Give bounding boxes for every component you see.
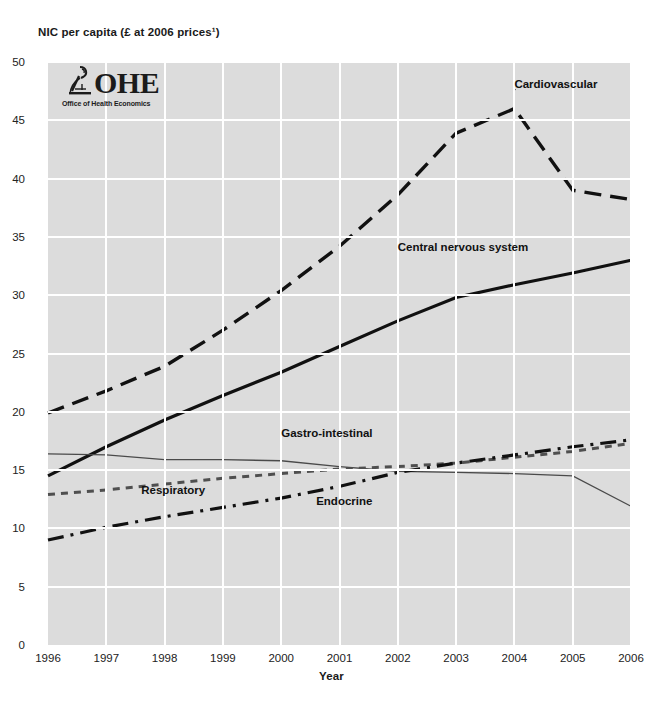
series-label-gastro-intestinal: Gastro-intestinal: [281, 427, 372, 439]
gridline-vertical: [397, 62, 399, 645]
x-axis-title: Year: [0, 670, 663, 682]
series-label-endocrine: Endocrine: [316, 495, 372, 507]
y-axis-tick-label: 5: [0, 581, 25, 593]
gridline-vertical: [222, 62, 224, 645]
logo-wordmark: OHE: [94, 66, 159, 100]
y-axis-tick-label: 10: [0, 522, 25, 534]
y-axis-tick-label: 0: [0, 639, 25, 651]
y-axis-tick-label: 25: [0, 348, 25, 360]
x-axis-tick-label: 2002: [368, 652, 428, 664]
gridline-vertical: [455, 62, 457, 645]
y-axis-tick-label: 20: [0, 406, 25, 418]
gridline-vertical: [630, 62, 632, 645]
y-axis-title: NIC per capita (£ at 2006 prices¹): [38, 26, 220, 38]
gridline-vertical: [105, 62, 107, 645]
x-axis-tick-label: 2004: [484, 652, 544, 664]
plot-area: [48, 62, 631, 645]
x-axis-tick-label: 2003: [426, 652, 486, 664]
x-axis-tick-label: 1997: [76, 652, 136, 664]
x-axis-tick-label: 2001: [310, 652, 370, 664]
x-axis-tick-label: 1998: [135, 652, 195, 664]
gridline-vertical: [339, 62, 341, 645]
x-axis-tick-label: 2005: [543, 652, 603, 664]
y-axis-tick-label: 35: [0, 231, 25, 243]
y-axis-tick-label: 15: [0, 464, 25, 476]
gridline-vertical: [513, 62, 515, 645]
gridline-vertical: [164, 62, 166, 645]
series-label-cardiovascular: Cardiovascular: [514, 78, 597, 90]
gridline-vertical: [280, 62, 282, 645]
series-label-central-nervous-system: Central nervous system: [398, 241, 528, 253]
y-axis-tick-label: 30: [0, 289, 25, 301]
x-axis-tick-label: 1996: [18, 652, 78, 664]
y-axis-tick-label: 50: [0, 56, 25, 68]
chart-container: NIC per capita (£ at 2006 prices¹) OHE O…: [0, 0, 663, 701]
y-axis-tick-label: 40: [0, 173, 25, 185]
gridline-vertical: [572, 62, 574, 645]
y-axis-tick-label: 45: [0, 114, 25, 126]
x-axis-tick-label: 2000: [251, 652, 311, 664]
series-label-respiratory: Respiratory: [141, 484, 205, 496]
x-axis-tick-label: 1999: [193, 652, 253, 664]
logo-subtitle: Office of Health Economics: [62, 100, 150, 107]
ohe-logo: OHE Office of Health Economics: [62, 68, 182, 114]
microscope-icon: [66, 64, 96, 104]
x-axis-tick-label: 2006: [601, 652, 661, 664]
